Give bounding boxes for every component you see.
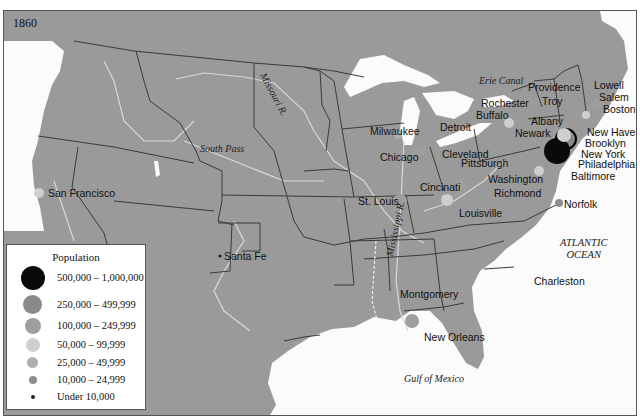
gulf-of-mexico-label: Gulf of Mexico [404,373,464,384]
population-legend: Population 500,000 – 1,000,000 250,000 –… [6,244,146,410]
legend-dot-icon [21,266,45,290]
legend-label: 500,000 – 1,000,000 [57,272,144,283]
legend-item: 50,000 – 99,999 [7,337,145,355]
legend-dot-icon [26,338,40,352]
city-label-milwaukee: Milwaukee [370,125,420,137]
city-dot-louisville [441,194,453,206]
city-label-buffalo: Buffalo [476,109,509,121]
city-label-newark: Newark [515,127,551,139]
legend-dot-icon [31,395,35,399]
legend-dot-icon [29,376,37,384]
legend-label: 100,000 – 249,999 [57,320,136,331]
atlantic-ocean-label-line1: ATLANTIC [560,237,607,249]
city-label-richmond: Richmond [494,187,541,199]
legend-dot-icon [25,318,41,334]
city-label-lowell: Lowell [594,79,624,91]
city-label-louisville: Louisville [459,207,502,219]
city-dot-norfolk [555,199,563,207]
legend-label: Under 10,000 [57,391,115,402]
city-label-troy: Troy [542,95,563,107]
legend-item: 25,000 – 49,999 [7,355,145,373]
legend-label: 50,000 – 99,999 [57,339,125,350]
legend-item: 500,000 – 1,000,000 [7,269,145,287]
legend-label: 250,000 – 499,999 [57,299,136,310]
city-label-providence: Providence [528,81,581,93]
city-label-cincinati: Cincinati [420,181,460,193]
city-dot-philadelphia [557,128,571,142]
erie-canal-label: Erie Canal [479,75,523,86]
map-year: 1860 [13,16,37,31]
city-label-rochester: Rochester [481,97,529,109]
city-label-albany: Albany [531,115,563,127]
legend-item: 250,000 – 499,999 [7,297,145,315]
legend-item: 100,000 – 249,999 [7,318,145,336]
city-label-new-orleans: New Orleans [424,331,485,343]
city-label-charleston: Charleston [534,275,585,287]
city-label-santa-fe: Santa Fe [224,250,267,262]
atlantic-ocean-label: ATLANTIC OCEAN [560,237,607,261]
city-dot-new-orleans [405,314,419,328]
city-label-boston: Boston [603,103,636,115]
city-label-san-francisco: San Francisco [48,187,115,199]
legend-item: 10,000 – 24,999 [7,372,145,390]
city-dot-san-francisco [34,188,44,198]
atlantic-ocean-label-line2: OCEAN [560,249,607,261]
city-label-detroit: Detroit [440,121,471,133]
city-label-norfolk: Norfolk [564,198,597,210]
city-label-montgomery: Montgomery [400,288,458,300]
city-dot-new-york [544,138,570,164]
city-dot-providence [582,111,590,119]
city-label-pittsburgh: Pittsburgh [461,157,508,169]
legend-label: 10,000 – 24,999 [57,374,125,385]
city-label-st-louis: St. Louis [358,195,399,207]
south-pass-label: South Pass [200,143,244,154]
legend-dot-icon [27,357,38,368]
city-label-philadelphia: Philadelphia [578,158,635,170]
city-label-chicago: Chicago [380,151,419,163]
legend-dot-icon [23,295,42,314]
city-label-baltimore: Baltimore [571,170,615,182]
legend-title: Population [7,251,145,263]
city-label-salem: Salem [599,91,629,103]
city-label-washington: Washington [488,173,543,185]
city-dot-santa-fe [218,254,221,257]
legend-item: Under 10,000 [7,389,145,407]
legend-label: 25,000 – 49,999 [57,357,125,368]
